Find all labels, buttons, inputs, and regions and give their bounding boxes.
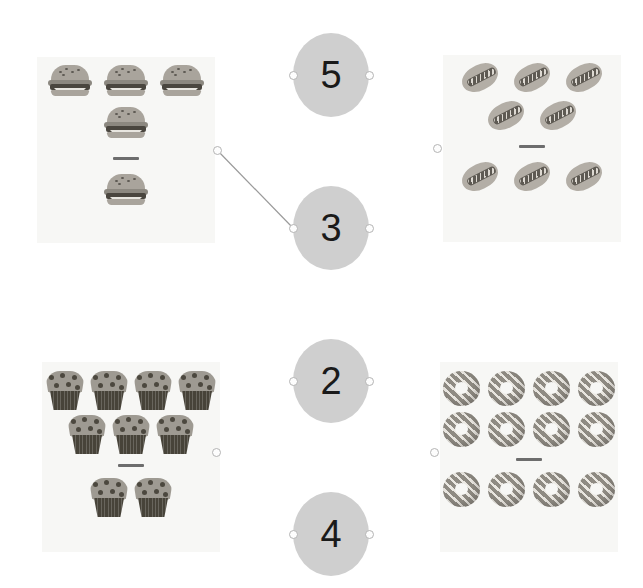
item-row-above (47, 63, 205, 97)
hotdog-icon (536, 99, 580, 133)
donut-icon (442, 370, 482, 408)
muffin-icon (45, 370, 85, 412)
division-bar-burgers (113, 157, 139, 160)
item-row-below (89, 477, 173, 519)
anchor-circle-5-right[interactable] (365, 71, 374, 80)
worksheet-canvas: 5324 (0, 0, 643, 588)
muffin-icon (67, 414, 107, 456)
number-circle-label: 2 (320, 362, 341, 400)
item-row-below (458, 160, 606, 194)
donut-icon (487, 411, 527, 449)
burger-icon (103, 105, 149, 139)
donut-icon (442, 471, 482, 509)
donut-icon (532, 370, 572, 408)
anchor-circle-3-left[interactable] (289, 224, 298, 233)
item-row-above (45, 370, 217, 412)
burger-icon (103, 63, 149, 97)
item-row-above (442, 370, 617, 408)
burger-icon (47, 63, 93, 97)
number-circle-label: 4 (320, 515, 341, 553)
item-row-below (442, 471, 617, 509)
item-row-above (67, 414, 195, 456)
donut-icon (577, 370, 617, 408)
panel-rows-hotdogs (443, 55, 621, 242)
anchor-muffins-right[interactable] (212, 448, 221, 457)
muffin-icon (133, 477, 173, 519)
item-panel-burgers[interactable] (37, 57, 215, 243)
donut-icon (577, 411, 617, 449)
muffin-icon (155, 414, 195, 456)
panel-rows-burgers (37, 57, 215, 243)
anchor-circle-4-left[interactable] (289, 530, 298, 539)
hotdog-icon (458, 61, 502, 95)
number-circle-2[interactable]: 2 (293, 339, 369, 423)
number-circle-label: 3 (320, 209, 341, 247)
anchor-circle-2-left[interactable] (289, 377, 298, 386)
item-row-above (458, 61, 606, 95)
number-circle-label: 5 (320, 56, 341, 94)
hotdog-icon (510, 61, 554, 95)
donut-icon (487, 370, 527, 408)
item-row-below (103, 172, 149, 206)
panel-rows-muffins (42, 362, 220, 552)
hotdog-icon (562, 61, 606, 95)
number-circle-3[interactable]: 3 (293, 186, 369, 270)
anchor-hotdogs-left[interactable] (433, 144, 442, 153)
item-panel-muffins[interactable] (42, 362, 220, 552)
item-panel-donuts[interactable] (440, 362, 618, 552)
item-row-above (442, 411, 617, 449)
burger-icon (159, 63, 205, 97)
division-bar-hotdogs (519, 145, 545, 148)
anchor-circle-5-left[interactable] (289, 71, 298, 80)
hotdog-icon (562, 160, 606, 194)
link-burgers-to-3 (217, 150, 293, 228)
anchor-circle-2-right[interactable] (365, 377, 374, 386)
division-bar-donuts (516, 458, 542, 461)
item-panel-hotdogs[interactable] (443, 55, 621, 242)
anchor-donuts-left[interactable] (430, 448, 439, 457)
muffin-icon (133, 370, 173, 412)
muffin-icon (89, 477, 129, 519)
panel-rows-donuts (440, 362, 618, 552)
donut-icon (532, 471, 572, 509)
division-bar-muffins (118, 464, 144, 467)
hotdog-icon (510, 160, 554, 194)
donut-icon (532, 411, 572, 449)
anchor-circle-3-right[interactable] (365, 224, 374, 233)
donut-icon (577, 471, 617, 509)
item-row-above (484, 99, 580, 133)
hotdog-icon (484, 99, 528, 133)
anchor-circle-4-right[interactable] (365, 530, 374, 539)
donut-icon (487, 471, 527, 509)
hotdog-icon (458, 160, 502, 194)
anchor-burgers-right[interactable] (213, 146, 222, 155)
muffin-icon (89, 370, 129, 412)
donut-icon (442, 411, 482, 449)
burger-icon (103, 172, 149, 206)
muffin-icon (177, 370, 217, 412)
number-circle-5[interactable]: 5 (293, 33, 369, 117)
muffin-icon (111, 414, 151, 456)
number-circle-4[interactable]: 4 (293, 492, 369, 576)
item-row-above (103, 105, 149, 139)
